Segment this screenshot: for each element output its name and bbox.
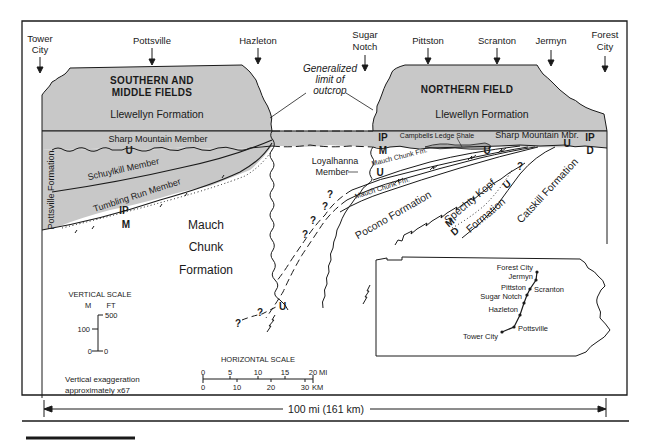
pennsylvanian-symbol-north: IP: [378, 132, 388, 143]
mauch-chunk-label-3: Formation: [179, 263, 233, 277]
southern-field-label-2: MIDDLE FIELDS: [112, 87, 193, 98]
southern-field-label: SOUTHERN AND: [110, 75, 194, 86]
devonian-symbol-spechty: D: [448, 225, 461, 238]
inset-label-pittston: Pittston: [501, 283, 526, 292]
outcrop-note-2: limit of: [316, 74, 346, 85]
outcrop-leader-line: [270, 93, 306, 118]
mi-unit: MI: [319, 368, 327, 377]
mauch-chunk-label-2: Chunk: [189, 240, 225, 254]
city-sugar-notch-2: Notch: [353, 41, 378, 52]
exaggeration-note: Vertical exaggeration: [65, 375, 140, 384]
northern-field-label: NORTHERN FIELD: [421, 84, 514, 95]
pottsville-formation-label: Pottsville Formation: [46, 150, 56, 229]
city-forest-city: Forest: [592, 29, 619, 40]
horizontal-scale-title: HORIZONTAL SCALE: [221, 355, 295, 364]
inset-label-tower-city: Tower City: [463, 332, 498, 341]
uncertain-q-4: ?: [302, 229, 308, 240]
city-tower-city: Tower: [27, 33, 52, 44]
vertical-scale-m-0: 0: [88, 347, 92, 356]
inset-label-pottsville: Pottsville: [518, 324, 548, 333]
mississippian-symbol-south: M: [122, 219, 130, 230]
catskill-formation-label: Catskill Formation: [514, 155, 580, 225]
outcrop-note-3: outcrop: [313, 85, 347, 96]
llewellyn-south-label: Llewellyn Formation: [110, 108, 204, 120]
zigzag-tail-2: [363, 285, 370, 304]
inset-label-forest-city: Forest City: [497, 263, 534, 272]
city-pottsville: Pottsville: [133, 35, 171, 46]
outcrop-leader-line-2: [346, 93, 373, 110]
total-length-label: 100 mi (161 km): [288, 403, 364, 415]
vertical-scale-title: VERTICAL SCALE: [69, 290, 132, 299]
cross-section-figure: Tower City Pottsville Hazleton Sugar Not…: [0, 0, 649, 442]
vertical-scale-unit-m: M: [85, 301, 91, 310]
km-tick-20: 20: [267, 383, 275, 392]
pennsylvanian-symbol-east: IP: [585, 132, 595, 143]
inset-label-hazleton: Hazleton: [488, 305, 518, 314]
vertical-scale-unit-ft: FT: [106, 301, 116, 310]
city-scranton: Scranton: [478, 35, 516, 46]
loyalhanna-label: Loyalhanna: [312, 156, 359, 166]
km-tick-10: 10: [233, 383, 241, 392]
outcrop-note: Generalized: [303, 63, 357, 74]
unconformity-u-upper: U: [483, 145, 490, 156]
km-tick-0: 0: [201, 383, 205, 392]
uncertain-q-6: ?: [235, 318, 241, 329]
km-unit: KM: [312, 383, 323, 392]
mi-tick-20: 20: [309, 368, 317, 377]
mi-tick-0: 0: [201, 368, 205, 377]
unconformity-u-east: U: [563, 138, 570, 149]
llewellyn-north-label: Llewellyn Formation: [435, 108, 529, 120]
unconformity-u-loyalhanna: U: [376, 167, 383, 178]
campbells-ledge-label: Campbells Ledge Shale: [400, 132, 474, 140]
vertical-scale-ft-0: 0: [104, 347, 108, 356]
hazleton-wavy-line: [270, 131, 288, 310]
devonian-symbol-east: D: [586, 145, 593, 156]
pocono-top-contact: [340, 147, 538, 212]
city-sugar-notch: Sugar: [352, 29, 377, 40]
km-tick-30: 30: [301, 383, 309, 392]
uncertain-q-2: ?: [322, 201, 328, 212]
inset-label-jermyn: Jermyn: [508, 272, 533, 281]
mi-tick-10: 10: [254, 368, 262, 377]
vertical-scale-m-100: 100: [77, 325, 90, 334]
uncertain-contact-dashed-1: [276, 190, 352, 282]
city-pittston: Pittston: [412, 35, 444, 46]
mi-tick-15: 15: [281, 368, 289, 377]
city-forest-city-2: City: [597, 41, 614, 52]
inset-label-scranton: Scranton: [534, 285, 564, 294]
sharp-mountain-member-label: Sharp Mountain Member: [108, 134, 207, 144]
northern-llewellyn-unit: [373, 65, 607, 131]
city-jermyn: Jermyn: [535, 35, 566, 46]
mi-tick-5: 5: [228, 368, 232, 377]
uncertain-q-3: ?: [310, 215, 316, 226]
vertical-scale-bar: [92, 315, 103, 351]
unconformity-u-south: U: [125, 145, 132, 156]
city-hazleton: Hazleton: [239, 35, 277, 46]
unconformity-u-spechty: U: [500, 178, 513, 191]
pennsylvanian-symbol-south: IP: [119, 205, 129, 216]
unconformity-u-dashed: U: [279, 301, 286, 312]
mississippian-symbol-north: M: [379, 145, 387, 156]
uncertain-q-5: ?: [257, 307, 263, 318]
mauch-chunk-label: Mauch: [188, 218, 224, 232]
uncertain-q-1: ?: [327, 189, 333, 200]
eroded-sharp-mountain-band: [272, 131, 373, 147]
city-tower-city-2: City: [32, 44, 49, 55]
vertical-scale-ft-500: 500: [105, 311, 118, 320]
zigzag-tail-1: [267, 315, 275, 332]
uncertain-q-spechty: ?: [517, 161, 523, 172]
inset-label-sugar-notch: Sugar Notch: [480, 292, 522, 301]
exaggeration-note-2: approximately x67: [65, 386, 130, 395]
loyalhanna-label-2: Member: [315, 167, 348, 177]
